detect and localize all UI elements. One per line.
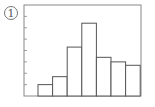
histogram-bar (111, 62, 126, 96)
histogram-bar (67, 47, 82, 96)
histogram-bar (96, 57, 111, 96)
histogram-bar (53, 77, 68, 96)
histogram-chart (0, 0, 155, 107)
histogram-bar (38, 85, 53, 96)
histogram-bar (82, 23, 97, 96)
histogram-bars (38, 23, 140, 96)
histogram-bar (126, 65, 141, 96)
